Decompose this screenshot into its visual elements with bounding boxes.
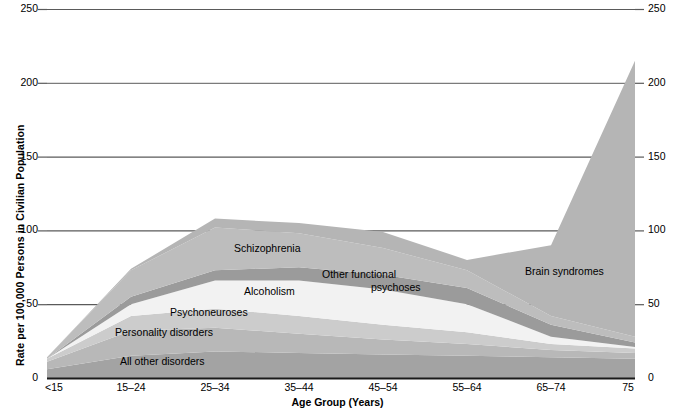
x-tick-label-7: 75: [622, 381, 634, 393]
x-tick-label-1: 15–24: [116, 381, 145, 393]
y-tick-label-100-right: 100: [648, 223, 675, 235]
x-tick-label-2: 25–34: [200, 381, 229, 393]
x-tick-label-6: 65–74: [536, 381, 565, 393]
band-label-schizophrenia: Schizophrenia: [234, 242, 301, 255]
band-label-other-functional: Other functional: [322, 268, 396, 281]
y-tick-label-250-right: 250: [648, 2, 675, 14]
x-tick-label-4: 45–54: [368, 381, 397, 393]
y-tick-label-50-left: 50: [4, 297, 38, 309]
band-label-personality-disorders: Personality disorders: [115, 326, 213, 339]
x-tick-label-5: 55–64: [452, 381, 481, 393]
band-label-psychoneuroses: Psychoneuroses: [170, 306, 248, 319]
y-tick-label-0-left: 0: [4, 371, 38, 383]
y-tick-label-200-right: 200: [648, 76, 675, 88]
y-tick-label-0-right: 0: [648, 371, 675, 383]
plot-area: [0, 0, 675, 416]
stacked-area-chart: Rate per 100,000 Persons in Civilian Pop…: [0, 0, 675, 416]
band-label-all-other-disorders: All other disorders: [120, 355, 205, 368]
y-tick-label-150-right: 150: [648, 150, 675, 162]
y-tick-label-50-right: 50: [648, 297, 675, 309]
y-tick-label-250-left: 250: [4, 2, 38, 14]
band-label-alcoholism: Alcoholism: [244, 285, 295, 298]
x-axis-title: Age Group (Years): [0, 396, 675, 408]
y-tick-label-150-left: 150: [4, 150, 38, 162]
y-tick-label-100-left: 100: [4, 223, 38, 235]
x-tick-label-3: 35–44: [284, 381, 313, 393]
band-label-brain-syndromes: Brain syndromes: [525, 265, 604, 278]
x-tick-label-0: <15: [45, 381, 63, 393]
band-label-psychoses: psychoses: [371, 281, 421, 294]
y-tick-label-200-left: 200: [4, 76, 38, 88]
